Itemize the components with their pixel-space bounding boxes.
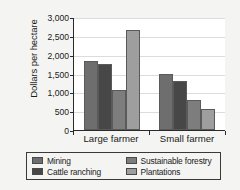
bar-group-1	[74, 18, 150, 130]
bar-chart-figure: Dollars per hectare 05001,0001,5002,0002…	[0, 0, 240, 190]
legend-label: Cattle ranching	[47, 167, 101, 177]
bar-sustainable-forestry-small-farmer	[187, 100, 201, 131]
legend-item-sustainable-forestry[interactable]: Sustainable forestry	[126, 155, 216, 166]
bar-group-2	[150, 18, 226, 130]
legend-label: Mining	[47, 156, 71, 166]
legend-swatch-icon	[32, 168, 43, 175]
y-axis-tick-0: 0	[33, 126, 69, 136]
plot-area	[73, 18, 225, 131]
bar-groups	[74, 18, 225, 130]
y-axis-tick-labels: 05001,0001,5002,0002,5003,000	[33, 18, 69, 131]
y-axis-tick-2000: 2,000	[33, 51, 69, 61]
y-axis-tick-2500: 2,500	[33, 32, 69, 42]
bar-sustainable-forestry-large-farmer	[112, 90, 126, 130]
legend-label: Plantations	[141, 167, 181, 177]
legend-swatch-icon	[126, 168, 137, 175]
y-axis-tick-1000: 1,000	[33, 88, 69, 98]
chart-legend: MiningSustainable forestryCattle ranchin…	[26, 152, 221, 180]
x-axis-label-1: Large farmer	[73, 133, 149, 144]
plot-block: Dollars per hectare 05001,0001,5002,0002…	[16, 18, 228, 136]
bar-mining-small-farmer	[159, 74, 173, 131]
legend-item-mining[interactable]: Mining	[32, 155, 122, 166]
bar-mining-large-farmer	[84, 61, 98, 130]
legend-item-plantations[interactable]: Plantations	[126, 166, 216, 177]
y-axis-tick-3000: 3,000	[33, 13, 69, 23]
y-axis-tick-500: 500	[33, 107, 69, 117]
x-axis-tick-labels: Large farmerSmall farmer	[73, 133, 225, 144]
bar-plantations-large-farmer	[126, 30, 140, 130]
bar-plantations-small-farmer	[201, 109, 215, 130]
bar-group-inner	[84, 18, 140, 130]
legend-label: Sustainable forestry	[141, 156, 212, 166]
legend-swatch-icon	[32, 157, 43, 164]
y-axis-tick-1500: 1,500	[33, 70, 69, 80]
bar-cattle-ranching-small-farmer	[173, 81, 187, 130]
bar-group-inner	[159, 18, 215, 130]
legend-item-cattle-ranching[interactable]: Cattle ranching	[32, 166, 122, 177]
x-tick-mark	[225, 131, 226, 135]
x-axis-label-2: Small farmer	[149, 133, 225, 144]
legend-swatch-icon	[126, 157, 137, 164]
bar-cattle-ranching-large-farmer	[98, 64, 112, 130]
